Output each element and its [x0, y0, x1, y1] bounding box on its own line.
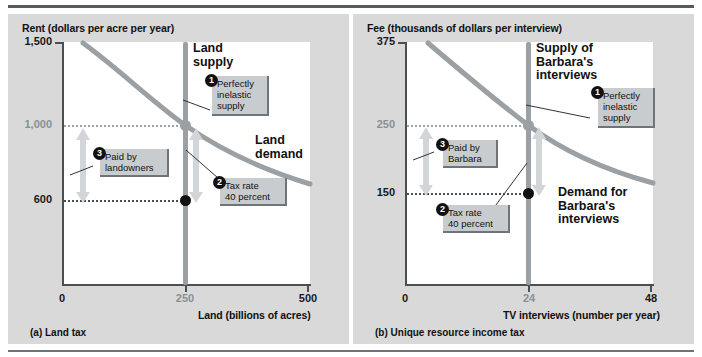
panel-b-xtick-48: [650, 284, 652, 292]
panel-a-supply-label-line1: Land: [193, 42, 233, 56]
panel-b-gridline-150: [407, 193, 529, 195]
panel-a-ylabel-1000: 1,000: [0, 118, 52, 130]
bottom-rule: [8, 350, 694, 352]
panel-a-callout-3-line1: Paid by: [105, 151, 163, 162]
panel-a-ytick-1500: [55, 42, 63, 44]
panel-a-supply-line: [183, 42, 188, 285]
panel-b-gridline-250: [407, 125, 529, 127]
panel-a-callout-3: Paid by landowners: [100, 149, 169, 177]
panel-b-supply-label-line1: Supply of: [536, 42, 597, 56]
panel-b-badge-1: 1: [591, 86, 604, 99]
panel-a-x-axis-title: Land (billions of acres): [198, 309, 311, 321]
panel-a-ylabel-600: 600: [0, 193, 52, 205]
panel-a-badge-2: 2: [213, 176, 226, 189]
panel-b-callout-2: Tax rate 40 percent: [443, 205, 510, 233]
panel-a-callout-2-line2: 40 percent: [225, 191, 281, 202]
panel-a-demand-label-line1: Land: [255, 134, 303, 148]
panel-a-supply-label-line2: supply: [193, 56, 233, 70]
panel-b-callout-1: Perfectly inelastic supply: [598, 88, 655, 128]
panel-a-supply-label: Land supply: [193, 42, 233, 69]
panel-a-badge-3: 3: [93, 147, 106, 160]
panel-a-xtick-250: [185, 284, 187, 292]
panel-b-ytick-375: [398, 42, 406, 44]
panel-b-xtick-24: [528, 284, 530, 292]
panel-a-y-axis-title: Rent (dollars per acre per year): [22, 22, 174, 34]
panel-a-xlabel-250: 250: [171, 292, 199, 304]
panel-b-y-axis-title: Fee (thousands of dollars per interview): [367, 22, 562, 34]
panel-b-ylabel-150: 150: [348, 186, 395, 198]
panel-a-gridline-1000: [64, 125, 186, 127]
panel-b-ylabel-375: 375: [348, 35, 395, 47]
panel-a-callout-1-line2: inelastic: [217, 89, 263, 100]
top-rule: [8, 5, 694, 8]
panel-a-callout-2-line1: Tax rate: [225, 180, 281, 191]
panel-b-callout-3: Paid by Barbara: [443, 140, 498, 168]
panel-b-xlabel-24: 24: [515, 292, 543, 304]
panel-a-ylabel-1500: 1,500: [0, 35, 52, 47]
panel-a-caption: (a) Land tax: [30, 327, 86, 338]
panel-b-callout-2-line1: Tax rate: [448, 207, 504, 218]
panel-b-callout-1-line2: inelastic: [603, 101, 649, 112]
panel-b-caption: (b) Unique resource income tax: [375, 327, 524, 338]
panel-a-equilibrium-dot: [180, 120, 191, 131]
panel-a-y-axis: [62, 42, 64, 286]
panel-b-supply-label: Supply of Barbara's interviews: [536, 42, 597, 83]
panel-a-xtick-500: [307, 284, 309, 292]
panel-a-demand-label: Land demand: [255, 134, 303, 161]
panel-b-aftertax-dot: [523, 188, 534, 199]
panel-b-callout-1-line1: Perfectly: [603, 90, 649, 101]
panel-b-callout-3-line2: Barbara: [448, 153, 492, 164]
panel-b-callout-1-line3: supply: [603, 112, 649, 123]
panel-b-supply-line: [526, 42, 531, 285]
panel-a-callout-3-line2: landowners: [105, 162, 163, 173]
panel-b-badge-2: 2: [436, 203, 449, 216]
panel-b-demand-label-line3: interviews: [558, 213, 627, 227]
panel-b-xlabel-48: 48: [637, 292, 665, 304]
figure-container: Rent (dollars per acre per year) 1,500 1…: [0, 0, 702, 357]
panel-a-xlabel-500: 500: [294, 292, 322, 304]
panel-b-demand-label: Demand for Barbara's interviews: [558, 186, 627, 227]
panel-b-callout-2-line2: 40 percent: [448, 218, 504, 229]
panel-b-supply-label-line2: Barbara's: [536, 56, 597, 70]
panel-b-xlabel-0: 0: [391, 292, 419, 304]
panel-a-gridline-600: [64, 200, 186, 202]
panel-b-badge-3: 3: [436, 138, 449, 151]
panel-b-y-axis: [405, 42, 407, 286]
panel-b-demand-label-line2: Barbara's: [558, 200, 627, 214]
panel-b-x-axis-title: TV interviews (number per year): [503, 309, 660, 321]
panel-a-aftertax-dot: [180, 195, 191, 206]
panel-a-demand-label-line2: demand: [255, 148, 303, 162]
panel-b-callout-3-line1: Paid by: [448, 142, 492, 153]
panel-b-supply-label-line3: interviews: [536, 69, 597, 83]
panel-b-equilibrium-dot: [523, 120, 534, 131]
panel-a-callout-1-line3: supply: [217, 100, 263, 111]
panel-a-badge-1: 1: [205, 74, 218, 87]
panel-a-callout-2: Tax rate 40 percent: [220, 178, 287, 206]
panel-a-callout-1: Perfectly inelastic supply: [212, 76, 269, 116]
panel-a-xlabel-0: 0: [48, 292, 76, 304]
panel-b-ylabel-250: 250: [348, 118, 395, 130]
panel-b-demand-label-line1: Demand for: [558, 186, 627, 200]
panel-a-callout-1-line1: Perfectly: [217, 78, 263, 89]
